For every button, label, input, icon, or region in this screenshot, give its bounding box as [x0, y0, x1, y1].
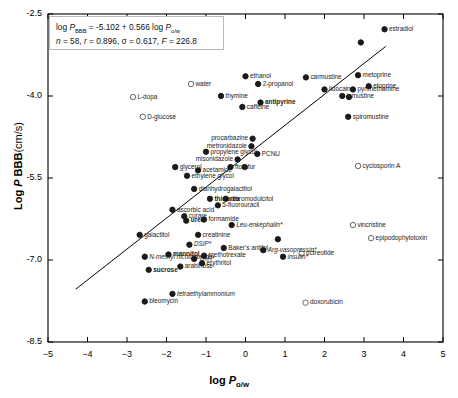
- point-label: glycerol: [180, 164, 202, 170]
- x-tick-label: −1: [197, 349, 215, 359]
- point-label: sucrose: [153, 267, 178, 273]
- point-label: Leu-enkephalin*: [236, 222, 282, 228]
- x-tick-label: 3: [355, 349, 373, 359]
- data-point: [340, 93, 345, 98]
- y-axis-title: Log P BBB(cm/s): [12, 96, 24, 236]
- point-label: caffeine: [247, 104, 269, 110]
- data-point: [255, 81, 260, 86]
- x-tick-label: 5: [434, 349, 452, 359]
- data-point: [303, 75, 308, 80]
- data-point: [322, 87, 327, 92]
- point-label: estradiol: [389, 26, 413, 32]
- data-point: [280, 254, 285, 259]
- point-label: water: [195, 81, 211, 87]
- data-point: [184, 173, 189, 178]
- data-point: [221, 245, 226, 250]
- point-label: procarbazine: [211, 135, 248, 141]
- point-label: Baker's antifol: [228, 245, 268, 251]
- point-label: vincristine: [357, 222, 385, 228]
- equation-line-2: n = 58, r = 0.896, σ = 0.617, F = 226.8: [56, 35, 217, 47]
- x-tick-label: 0: [237, 349, 255, 359]
- data-point: [350, 222, 355, 227]
- data-point: [207, 196, 212, 201]
- data-point: [215, 203, 220, 208]
- point-label: tetraethylammonium: [177, 291, 235, 297]
- x-tick-label: 1: [276, 349, 294, 359]
- data-point: [195, 232, 200, 237]
- point-label: epipodophylotoxin: [376, 235, 428, 241]
- point-label: urea: [191, 217, 205, 223]
- data-point: [235, 157, 240, 162]
- data-point: [368, 235, 373, 240]
- data-point: [240, 104, 245, 109]
- point-label: ftorafur: [235, 164, 255, 170]
- y-tick-label: -7.0: [14, 254, 42, 264]
- point-label: 2-propanol: [263, 81, 294, 87]
- data-point: [303, 300, 308, 305]
- point-label: spiromustine: [353, 114, 389, 120]
- data-point: [382, 27, 387, 32]
- point-label: antipyrine: [265, 99, 296, 105]
- data-point: [187, 242, 192, 247]
- point-label: dianhydrogalactitol: [199, 186, 252, 192]
- regression-equation-box: log PBBB = -5.102 + 0.566 log Po/w n = 5…: [49, 16, 224, 50]
- point-label: creatinine: [203, 232, 231, 238]
- data-point: [172, 164, 177, 169]
- point-label: lomustine: [347, 93, 374, 99]
- data-point: [355, 73, 360, 78]
- data-point: [355, 163, 360, 168]
- x-tick-label: 4: [395, 349, 413, 359]
- data-point: [203, 149, 208, 154]
- point-label: octreotide: [306, 250, 334, 256]
- data-point: [170, 207, 175, 212]
- x-tick-label: −5: [39, 349, 57, 359]
- point-label: misonidazole: [196, 156, 233, 162]
- point-label: formamide: [209, 216, 239, 222]
- data-point: [140, 114, 145, 119]
- point-label: arabinose: [185, 263, 213, 269]
- plot-frame: [48, 14, 443, 342]
- data-point: [130, 94, 135, 99]
- point-label: galactitol: [144, 232, 169, 238]
- data-point: [229, 222, 234, 227]
- point-label: D-glucose: [147, 114, 176, 120]
- point-label: cyclosporin A: [363, 163, 401, 169]
- data-point: [358, 40, 363, 45]
- data-point: [142, 299, 147, 304]
- y-tick-label: -2.5: [14, 8, 42, 18]
- data-point: [142, 254, 147, 259]
- point-label: thymine: [226, 93, 248, 99]
- point-label: bleomycin: [149, 298, 178, 304]
- point-label: metoprine: [363, 72, 391, 78]
- data-point: [170, 291, 175, 296]
- point-label: PCNU: [262, 151, 280, 157]
- point-label: propylene glycol: [211, 149, 257, 155]
- point-label: ethylene glycol: [192, 173, 234, 179]
- x-tick-label: 2: [316, 349, 334, 359]
- data-point: [346, 114, 351, 119]
- data-point: [178, 264, 183, 269]
- x-tick-label: −2: [158, 349, 176, 359]
- point-label: carmustine: [310, 74, 341, 80]
- x-tick-label: −3: [118, 349, 136, 359]
- data-point: [275, 237, 280, 242]
- data-point: [191, 186, 196, 191]
- data-point: [243, 74, 248, 79]
- point-label: DSIP*: [194, 241, 211, 247]
- data-point: [250, 136, 255, 141]
- data-point: [188, 81, 193, 86]
- point-label: ethanol: [250, 73, 271, 79]
- data-point: [218, 93, 223, 98]
- equation-line-1: log PBBB = -5.102 + 0.566 log Po/w: [56, 21, 217, 35]
- point-label: 5-fluorouracil: [222, 202, 259, 208]
- data-point-layer: [130, 27, 387, 306]
- data-point: [146, 267, 151, 272]
- y-tick-label: -8.5: [14, 336, 42, 346]
- point-label: L-dopa: [137, 94, 157, 100]
- data-point: [137, 232, 142, 237]
- x-tick-label: −4: [79, 349, 97, 359]
- x-axis-title: log Po/w: [0, 374, 458, 389]
- point-label: doxorubicin: [310, 299, 343, 305]
- point-label: insulin*: [288, 254, 309, 260]
